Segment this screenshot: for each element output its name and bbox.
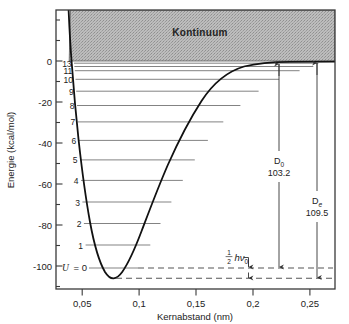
level-label-1: 1	[78, 241, 83, 251]
x-tick-label-0.1: 0,1	[132, 298, 145, 309]
continuum-label: Kontinuum	[172, 27, 227, 38]
y-tick-label-0: 0	[47, 56, 52, 67]
x-tick-label-0.05: 0,05	[73, 298, 92, 309]
d0-value-label: 103.2	[268, 168, 291, 178]
y-tick-label--100: -100	[33, 261, 52, 272]
level-label-7: 7	[71, 117, 76, 127]
level-label-10: 10	[64, 75, 74, 85]
zpe-nu-subscript: 0	[245, 258, 249, 265]
level-label-4: 4	[74, 176, 79, 186]
u-symbol: U	[62, 263, 70, 273]
x-tick-label-0.2: 0,2	[246, 298, 259, 309]
zpe-denominator: 2	[227, 258, 231, 265]
d0-subscript: 0	[280, 161, 284, 168]
u-zero-label: U = 0	[62, 262, 87, 273]
level-label-2: 2	[77, 219, 82, 229]
y-tick-label--20: -20	[38, 97, 52, 108]
diagram-svg: Kontinuum	[0, 0, 349, 324]
potential-energy-diagram: Kontinuum	[0, 0, 349, 324]
x-axis-title: Kernabstand (nm)	[157, 311, 233, 322]
level-label-13: 13	[62, 59, 72, 69]
de-value-label: 109.5	[306, 208, 329, 218]
y-tick-label--60: -60	[38, 179, 52, 190]
x-tick-label-0.25: 0,25	[301, 298, 320, 309]
de-subscript: e	[318, 201, 322, 208]
y-tick-label--40: -40	[38, 138, 52, 149]
level-label-5: 5	[73, 155, 78, 165]
zpe-numerator: 1	[227, 249, 231, 256]
y-tick-label--80: -80	[38, 220, 52, 231]
level-label-3: 3	[75, 198, 80, 208]
level-label-6: 6	[72, 136, 77, 146]
x-tick-label-0.15: 0,15	[187, 298, 206, 309]
y-axis-title: Energie (kcal/mol)	[5, 112, 16, 189]
